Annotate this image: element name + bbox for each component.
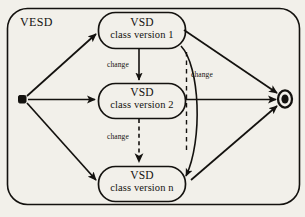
diagram-canvas: VESD VSD class version 1 VSD class versi… — [0, 0, 305, 217]
state-box-version-1[interactable] — [99, 13, 186, 49]
edge-start-to-version-1 — [27, 34, 96, 96]
state-box-version-n[interactable] — [99, 167, 186, 202]
edge-start-to-version-n — [27, 103, 96, 180]
final-state-inner-dot[interactable] — [281, 94, 288, 103]
edge-version-1-to-end — [184, 30, 277, 93]
edge-version-n-to-end — [191, 106, 277, 180]
state-box-version-2[interactable] — [99, 84, 186, 119]
edge-label-change-version-2-to-n: change — [107, 132, 129, 141]
diagram-graphics — [0, 0, 305, 217]
edge-label-change-version-1-to-2: change — [107, 60, 129, 69]
edge-label-change-version-1-to-n: change — [191, 70, 213, 79]
vesd-frame-label: VESD — [20, 15, 53, 30]
initial-state-node[interactable] — [19, 96, 27, 104]
